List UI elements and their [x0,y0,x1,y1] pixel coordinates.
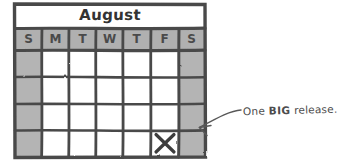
calendar-month-title: August [14,5,207,25]
day-header-friday: F [151,31,178,47]
row-divider-1 [15,77,205,78]
annotation-text-before: One [243,105,269,118]
annotation-text-emphasis: BIG [268,104,290,117]
release-x-mark [156,135,174,153]
annotation-label: One BIG release. [243,103,337,117]
row-divider-3 [15,130,205,131]
day-header-tuesday: T [69,31,96,47]
shaded-cells [15,28,205,157]
row-divider-2 [15,104,205,105]
day-header-monday: M [42,31,69,47]
day-header-sunday: S [15,31,42,47]
annotation-text-after: release. [290,103,337,116]
day-header-saturday: S [178,31,205,47]
day-header-thursday: T [123,31,150,47]
day-header-wednesday: W [96,31,123,47]
calendar-grid-lines [15,4,206,158]
